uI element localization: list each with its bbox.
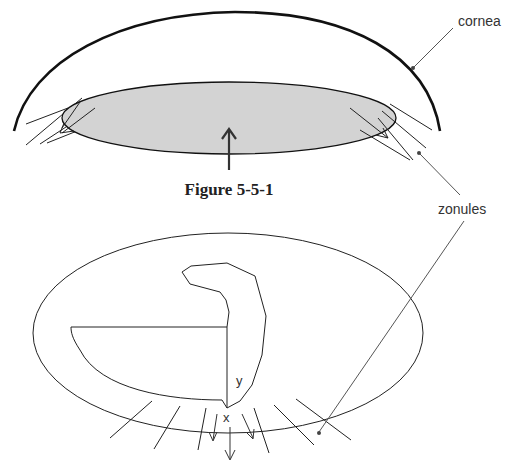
point-y-label: y [236, 373, 243, 388]
zonules-leader-bottom [317, 221, 464, 435]
eye-lens-diagram: Figure 5-5-1 cornea zonules y x [0, 0, 523, 469]
force-arrows [209, 414, 254, 460]
zonules-leader-top [417, 151, 460, 195]
zonules-label: zonules [438, 201, 486, 217]
bottom-figure: zonules y x [33, 201, 486, 460]
top-figure: Figure 5-5-1 cornea [14, 12, 501, 199]
cornea-leader [411, 28, 453, 70]
lens-section [71, 327, 227, 408]
figure-caption: Figure 5-5-1 [185, 180, 274, 199]
cornea-label: cornea [458, 13, 501, 29]
point-x-label: x [223, 410, 230, 425]
lens-hook [182, 263, 266, 408]
